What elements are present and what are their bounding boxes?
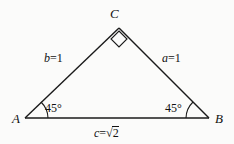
side-label-a: a=1 [162,52,181,64]
radical-icon: √2 [106,126,119,139]
vertex-label-a: A [12,112,20,125]
side-b-value: 1 [57,51,63,65]
side-c-operator: = [99,126,106,140]
vertex-label-c: C [110,7,119,20]
vertex-label-b: B [215,112,223,125]
triangle-diagram: C A B b=1 a=1 c=√2 45° 45° [0,0,234,144]
side-a-value: 1 [175,51,181,65]
side-b-line [25,28,119,118]
side-a-operator: = [168,51,175,65]
side-label-c: c=√2 [94,126,119,139]
side-b-operator: = [50,51,57,65]
triangle-figure-svg [0,0,234,144]
angle-arc-b [186,102,193,118]
angle-label-a: 45° [45,102,62,114]
side-c-value: 2 [112,126,119,139]
side-label-b: b=1 [44,52,63,64]
angle-label-b: 45° [165,102,182,114]
side-a-line [119,28,209,118]
